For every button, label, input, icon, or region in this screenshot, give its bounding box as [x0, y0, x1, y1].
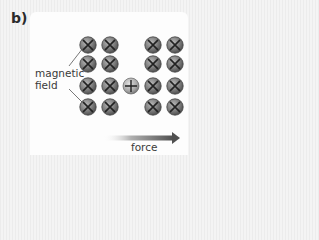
magnetic-field-label-line2: field [35, 79, 58, 91]
field-into-page-icon [167, 99, 183, 115]
field-into-page-icon [145, 37, 161, 53]
field-into-page-icon [80, 78, 96, 94]
positive-charge-icon [123, 78, 139, 94]
field-into-page-icon [102, 56, 118, 72]
field-into-page-icon [145, 78, 161, 94]
magnetic-field-label-line1: magnetic [35, 67, 84, 79]
field-into-page-icon [80, 37, 96, 53]
field-into-page-icon [102, 99, 118, 115]
force-label: force [131, 141, 157, 153]
field-into-page-icon [145, 56, 161, 72]
field-into-page-icon [80, 99, 96, 115]
field-into-page-icon [167, 37, 183, 53]
field-into-page-icon [167, 56, 183, 72]
field-into-page-icon [102, 37, 118, 53]
field-into-page-icon [145, 99, 161, 115]
field-into-page-icon [102, 78, 118, 94]
field-into-page-icon [167, 78, 183, 94]
magnetic-field-diagram [0, 0, 194, 155]
